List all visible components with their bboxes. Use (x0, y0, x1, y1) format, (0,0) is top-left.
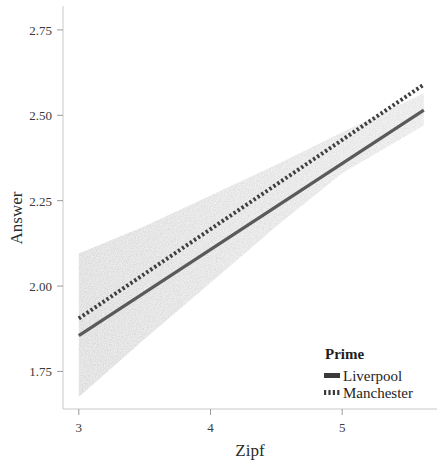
legend-label-liverpool: Liverpool (343, 368, 402, 384)
y-tick-label-1_75: 1.75 (29, 364, 52, 379)
x-tick-label-4: 4 (207, 420, 214, 435)
y-tick-label-2_00: 2.00 (29, 279, 52, 294)
legend-label-manchester: Manchester (343, 385, 413, 401)
x-tick-label-5: 5 (339, 420, 346, 435)
y-tick-label-2_25: 2.25 (29, 194, 52, 209)
x-axis-title: Zipf (235, 441, 265, 460)
y-tick-label-2_50: 2.50 (29, 108, 52, 123)
y-tick-label-2_75: 2.75 (29, 23, 52, 38)
y-axis-title: Answer (7, 191, 26, 244)
chart-container: 1.75 2.00 2.25 2.50 2.75 3 4 5 Answer Zi… (0, 0, 439, 461)
x-tick-label-3: 3 (76, 420, 83, 435)
legend-title: Prime (325, 346, 364, 362)
line-chart-plot: 1.75 2.00 2.25 2.50 2.75 3 4 5 Answer Zi… (0, 0, 439, 461)
